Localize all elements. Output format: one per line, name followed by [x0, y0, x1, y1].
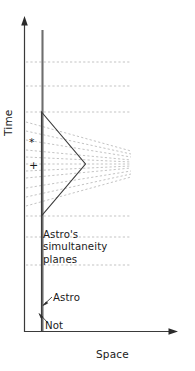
- not-label: Not: [45, 320, 63, 332]
- time-axis: [21, 16, 28, 332]
- plus-event-marker: +: [29, 160, 38, 171]
- time-axis-label: Time: [2, 110, 15, 137]
- star-event-marker: *: [29, 137, 35, 148]
- diagram-canvas: [0, 0, 195, 371]
- astro-leader-arrow: [43, 297, 52, 305]
- spacetime-diagram: Time Space Astro's simultaneity planes A…: [0, 0, 195, 371]
- space-axis-label: Space: [96, 348, 129, 361]
- simultaneity-planes-label: Astro's simultaneity planes: [43, 229, 107, 266]
- astro-label: Astro: [53, 292, 80, 304]
